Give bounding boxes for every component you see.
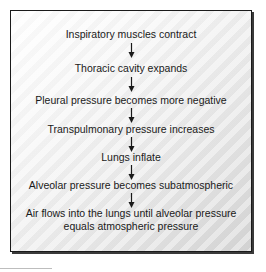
step-inspiratory-muscles-contract: Inspiratory muscles contract [11, 28, 251, 41]
step-alveolar-pressure-subatmospheric: Alveolar pressure becomes subatmospheric [11, 179, 251, 192]
step-thoracic-cavity-expands: Thoracic cavity expands [11, 62, 251, 75]
step-air-flows-into-lungs: Air flows into the lungs until alveolar … [11, 207, 251, 233]
down-arrow-icon [127, 165, 136, 180]
down-arrow-icon [127, 137, 136, 152]
step-pleural-pressure-more-negative: Pleural pressure becomes more negative [11, 94, 251, 107]
step-transpulmonary-pressure-increases: Transpulmonary pressure increases [11, 123, 251, 136]
down-arrow-icon [127, 108, 136, 123]
down-arrow-icon [127, 77, 136, 92]
step-air-flows-line2: equals atmospheric pressure [11, 220, 251, 233]
step-air-flows-line1: Air flows into the lungs until alveolar … [11, 207, 251, 220]
down-arrow-icon [127, 193, 136, 208]
flowchart-box: Inspiratory muscles contract Thoracic ca… [10, 10, 252, 252]
step-lungs-inflate: Lungs inflate [11, 151, 251, 164]
divider-line [0, 268, 52, 269]
down-arrow-icon [127, 43, 136, 58]
